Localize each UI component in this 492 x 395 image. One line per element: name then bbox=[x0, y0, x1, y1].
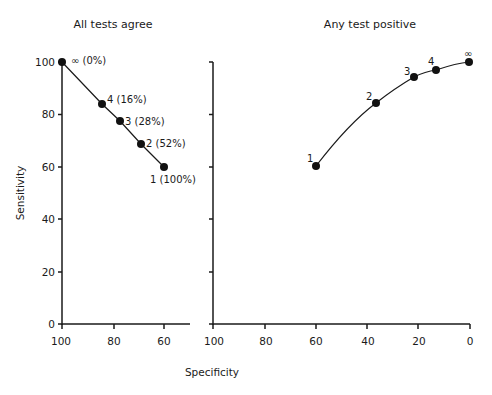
svg-text:20: 20 bbox=[412, 335, 425, 347]
svg-text:100: 100 bbox=[35, 56, 55, 68]
svg-text:80: 80 bbox=[259, 335, 272, 347]
data-point bbox=[372, 99, 380, 107]
svg-text:20: 20 bbox=[42, 266, 55, 278]
y-axis-label: Sensitivity bbox=[14, 166, 26, 221]
svg-text:40: 40 bbox=[361, 335, 374, 347]
point-label: ∞ (0%) bbox=[71, 55, 106, 66]
data-point bbox=[410, 73, 418, 81]
svg-text:80: 80 bbox=[107, 335, 120, 347]
data-point bbox=[58, 58, 66, 66]
point-label: 1 bbox=[307, 153, 313, 164]
left-series: ∞ (0%) 4 (16%) 3 (28%) 2 (52%) 1 (100%) bbox=[58, 55, 196, 185]
point-label: 2 (52%) bbox=[146, 138, 186, 149]
data-point bbox=[98, 100, 106, 108]
roc-figure: All tests agree Any test positive Sensit… bbox=[0, 0, 492, 395]
x-axis-label: Specificity bbox=[185, 366, 239, 378]
y-tick-labels: 100 80 60 40 20 0 bbox=[35, 56, 55, 330]
right-axes bbox=[209, 62, 470, 329]
right-panel-title: Any test positive bbox=[324, 18, 417, 31]
svg-text:100: 100 bbox=[204, 335, 224, 347]
svg-text:60: 60 bbox=[42, 161, 55, 173]
point-label: 3 bbox=[404, 66, 410, 77]
data-point bbox=[116, 117, 124, 125]
svg-text:0: 0 bbox=[48, 318, 55, 330]
data-point bbox=[160, 163, 168, 171]
point-label: 1 (100%) bbox=[150, 174, 196, 185]
point-label: 2 bbox=[366, 91, 372, 102]
right-x-tick-labels: 100 80 60 40 20 0 bbox=[204, 335, 473, 347]
svg-text:60: 60 bbox=[309, 335, 322, 347]
point-label: 4 (16%) bbox=[107, 94, 147, 105]
data-point bbox=[432, 66, 440, 74]
point-label: 4 bbox=[428, 56, 434, 67]
left-x-tick-labels: 100 80 60 bbox=[51, 335, 171, 347]
svg-text:80: 80 bbox=[42, 108, 55, 120]
data-point bbox=[465, 58, 473, 66]
right-series: 1 2 3 4 ∞ bbox=[307, 48, 473, 170]
svg-text:60: 60 bbox=[157, 335, 170, 347]
point-label: 3 (28%) bbox=[125, 116, 165, 127]
point-label: ∞ bbox=[464, 48, 472, 59]
data-point bbox=[137, 140, 145, 148]
svg-text:40: 40 bbox=[42, 213, 55, 225]
svg-text:100: 100 bbox=[51, 335, 71, 347]
svg-text:0: 0 bbox=[467, 335, 474, 347]
left-panel-title: All tests agree bbox=[73, 18, 152, 31]
